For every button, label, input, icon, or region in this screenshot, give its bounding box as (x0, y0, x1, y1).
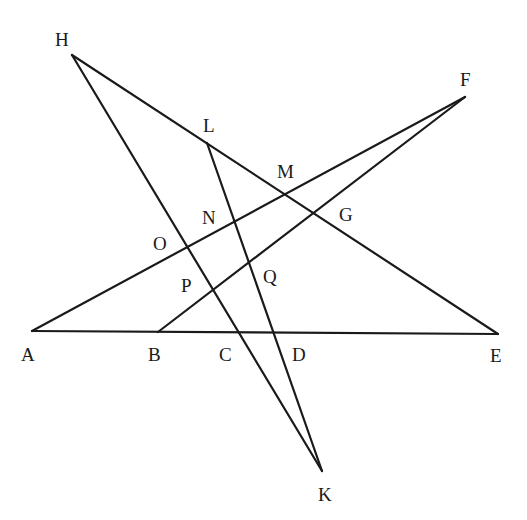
label-K: K (318, 484, 332, 505)
segment-AE (32, 331, 498, 334)
segment-AF (32, 97, 465, 331)
label-F: F (460, 69, 471, 90)
segment-HK (72, 55, 322, 471)
label-P: P (181, 275, 192, 296)
label-Q: Q (263, 266, 277, 287)
label-E: E (490, 345, 502, 366)
label-C: C (219, 344, 232, 365)
label-B: B (148, 344, 161, 365)
label-L: L (203, 115, 215, 136)
label-G: G (339, 204, 353, 225)
label-D: D (292, 344, 306, 365)
label-N: N (202, 207, 216, 228)
label-M: M (277, 161, 294, 182)
label-O: O (153, 233, 167, 254)
geometry-diagram: H F L M N G O P Q A B C D E K (0, 0, 527, 520)
label-A: A (21, 344, 35, 365)
label-H: H (55, 29, 69, 50)
